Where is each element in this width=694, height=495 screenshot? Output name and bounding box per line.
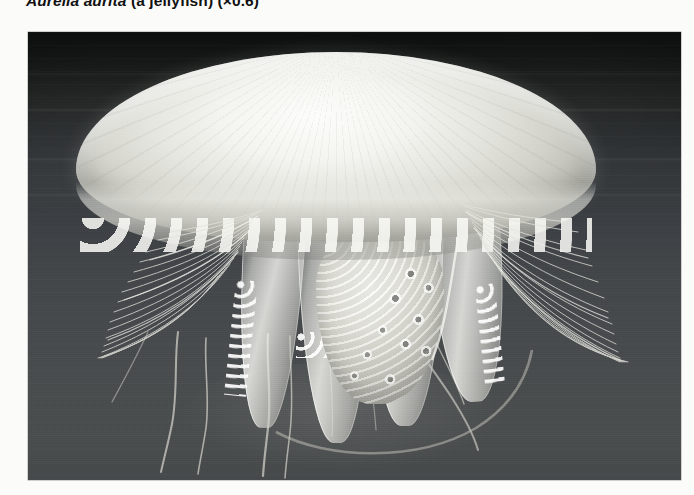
jellyfish-photograph bbox=[28, 32, 681, 480]
jellyfish-body bbox=[28, 32, 681, 480]
magnification-label: (×0.6) bbox=[218, 0, 260, 9]
scanned-page: Aurelia aurita (a jellyfish) (×0.6) bbox=[0, 0, 694, 495]
bell-lappets bbox=[80, 218, 592, 252]
figure-caption: Aurelia aurita (a jellyfish) (×0.6) bbox=[26, 0, 259, 11]
common-name: (a jellyfish) bbox=[126, 0, 217, 9]
species-name: Aurelia aurita bbox=[26, 0, 126, 9]
